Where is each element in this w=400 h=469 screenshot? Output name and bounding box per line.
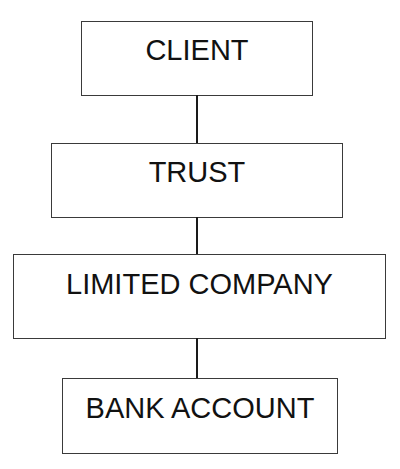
node-limited-company: LIMITED COMPANY — [13, 254, 386, 339]
node-bank-account: BANK ACCOUNT — [62, 378, 338, 454]
node-label-limited-company: LIMITED COMPANY — [14, 269, 385, 299]
node-label-trust: TRUST — [52, 157, 342, 187]
node-label-client: CLIENT — [82, 35, 312, 65]
connector-client-trust — [196, 95, 198, 144]
node-label-bank-account: BANK ACCOUNT — [63, 393, 337, 423]
ownership-structure-diagram: CLIENT TRUST LIMITED COMPANY BANK ACCOUN… — [0, 0, 400, 469]
node-trust: TRUST — [51, 143, 343, 218]
connector-trust-company — [196, 217, 198, 255]
connector-company-bank — [196, 338, 198, 379]
node-client: CLIENT — [81, 21, 313, 96]
